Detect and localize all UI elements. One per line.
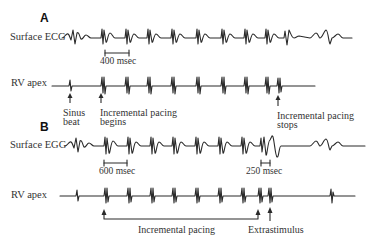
pacing-end-b-arrow-icon [256,209,261,215]
extrastimulus-arrow-icon [268,207,273,221]
panel-b-rv-apex-trace [60,188,355,203]
panel-b-surface-egg-trace [65,136,365,157]
panel-a-rv-apex-trace [52,77,315,94]
pacing-begins-arrow-icon [99,93,104,103]
sinus-beat-arrow-icon [68,93,73,103]
pacing-stops-arrow-icon [276,95,281,106]
panel-b-scale-bar-600 [104,160,127,166]
panel-a-surface-ecg-trace [62,29,352,45]
ecg-traces-drawing [0,0,373,246]
panel-b-scale-bar-250 [261,160,270,166]
incremental-pacing-bracket [104,214,258,219]
pacing-start-b-arrow-icon [102,209,107,215]
panel-a-scale-bar-400 [105,50,129,56]
